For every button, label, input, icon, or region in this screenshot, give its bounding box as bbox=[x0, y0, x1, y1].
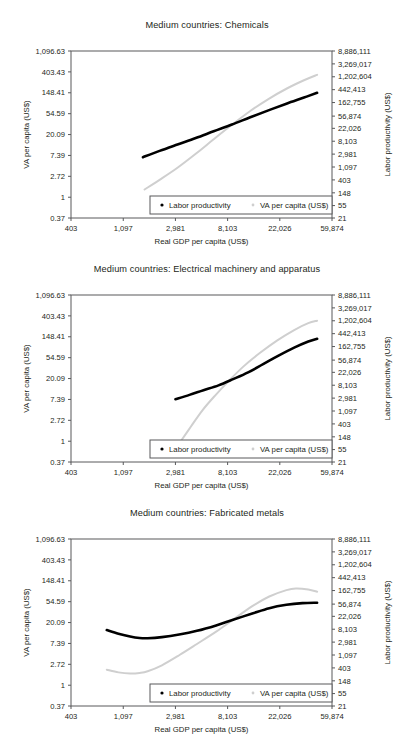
y-right-tick-label: 148 bbox=[338, 677, 351, 686]
chart-panel-electrical-machinery: Medium countries: Electrical machinery a… bbox=[0, 258, 414, 494]
y-left-tick-label: 20.09 bbox=[46, 130, 65, 139]
x-axis-title: Real GDP per capita (US$) bbox=[155, 237, 249, 246]
chart-canvas: 1,096.63403.43148.4154.5920.097.392.7210… bbox=[0, 258, 414, 494]
y-right-tick-label: 442,413 bbox=[338, 85, 365, 94]
y-right-axis-title: Labor productivity (US$) bbox=[383, 336, 392, 420]
series-labor-productivity bbox=[143, 93, 317, 157]
y-left-tick-label: 2.72 bbox=[50, 660, 65, 669]
y-right-tick-label: 56,874 bbox=[338, 600, 361, 609]
y-right-tick-label: 1,097 bbox=[338, 651, 357, 660]
y-left-axis-title: VA per capita (US$) bbox=[22, 100, 31, 169]
x-tick-label: 59,874 bbox=[320, 468, 343, 477]
y-right-tick-label: 3,269,017 bbox=[338, 548, 372, 557]
x-tick-label: 22,026 bbox=[268, 468, 291, 477]
y-left-tick-label: 148.41 bbox=[42, 88, 65, 97]
y-left-tick-label: 1 bbox=[61, 681, 65, 690]
y-right-tick-label: 55 bbox=[338, 201, 346, 210]
y-left-tick-label: 2.72 bbox=[50, 172, 65, 181]
legend-marker-va-per-capita bbox=[252, 692, 255, 695]
y-left-tick-label: 2.72 bbox=[50, 416, 65, 425]
y-left-tick-label: 0.37 bbox=[50, 214, 65, 223]
y-right-tick-label: 22,026 bbox=[338, 124, 361, 133]
chart-canvas: 1,096.63403.43148.4154.5920.097.392.7210… bbox=[0, 502, 414, 738]
y-left-tick-label: 148.41 bbox=[42, 332, 65, 341]
chart-canvas: 1,096.63403.43148.4154.5920.097.392.7210… bbox=[0, 14, 414, 250]
y-left-tick-label: 1 bbox=[61, 193, 65, 202]
y-right-tick-label: 8,103 bbox=[338, 137, 357, 146]
y-right-tick-label: 2,981 bbox=[338, 394, 357, 403]
y-left-axis-title: VA per capita (US$) bbox=[22, 588, 31, 657]
y-right-tick-label: 403 bbox=[338, 664, 351, 673]
y-right-tick-label: 2,981 bbox=[338, 150, 357, 159]
x-tick-label: 8,103 bbox=[218, 712, 237, 721]
y-left-tick-label: 20.09 bbox=[46, 374, 65, 383]
y-right-tick-label: 21 bbox=[338, 458, 346, 467]
chart-svg: 1,096.63403.43148.4154.5920.097.392.7210… bbox=[0, 258, 414, 494]
x-tick-label: 403 bbox=[65, 468, 78, 477]
y-right-tick-label: 55 bbox=[338, 445, 346, 454]
x-tick-label: 1,097 bbox=[114, 712, 133, 721]
y-right-tick-label: 3,269,017 bbox=[338, 60, 372, 69]
legend-marker-labor-productivity bbox=[160, 203, 163, 206]
y-left-tick-label: 0.37 bbox=[50, 702, 65, 711]
y-left-tick-label: 7.39 bbox=[50, 151, 65, 160]
y-right-tick-label: 162,755 bbox=[338, 342, 365, 351]
plot-frame bbox=[71, 539, 332, 706]
legend-marker-labor-productivity bbox=[160, 447, 163, 450]
y-right-tick-label: 21 bbox=[338, 702, 346, 711]
y-left-tick-label: 1,096.63 bbox=[35, 291, 65, 300]
legend-marker-va-per-capita bbox=[252, 448, 255, 451]
y-left-tick-label: 403.43 bbox=[42, 312, 65, 321]
y-right-tick-label: 3,269,017 bbox=[338, 304, 372, 313]
y-right-tick-label: 1,202,604 bbox=[338, 316, 372, 325]
y-left-axis-title: VA per capita (US$) bbox=[22, 344, 31, 413]
y-right-tick-label: 403 bbox=[338, 420, 351, 429]
x-tick-label: 1,097 bbox=[114, 468, 133, 477]
y-right-tick-label: 2,981 bbox=[338, 638, 357, 647]
y-left-tick-label: 54.59 bbox=[46, 597, 65, 606]
series-labor-productivity bbox=[107, 603, 317, 639]
x-tick-label: 403 bbox=[65, 712, 78, 721]
plot-frame bbox=[71, 295, 332, 462]
x-tick-label: 1,097 bbox=[114, 224, 133, 233]
legend-label-va-per-capita: VA per capita (US$) bbox=[260, 689, 329, 698]
series-va-per-capita bbox=[181, 321, 317, 441]
y-left-tick-label: 148.41 bbox=[42, 576, 65, 585]
y-left-tick-label: 1,096.63 bbox=[35, 535, 65, 544]
legend-label-labor-productivity: Labor productivity bbox=[169, 445, 231, 454]
y-left-tick-label: 7.39 bbox=[50, 395, 65, 404]
legend-marker-labor-productivity bbox=[160, 691, 163, 694]
x-tick-label: 2,981 bbox=[166, 468, 185, 477]
chart-panel-fabricated-metals: Medium countries: Fabricated metals 1,09… bbox=[0, 502, 414, 738]
y-right-tick-label: 56,874 bbox=[338, 112, 361, 121]
series-va-per-capita bbox=[107, 588, 317, 673]
y-left-tick-label: 1 bbox=[61, 437, 65, 446]
x-axis-title: Real GDP per capita (US$) bbox=[155, 725, 249, 734]
y-right-tick-label: 148 bbox=[338, 433, 351, 442]
legend-label-labor-productivity: Labor productivity bbox=[169, 689, 231, 698]
y-right-tick-label: 403 bbox=[338, 176, 351, 185]
y-left-tick-label: 20.09 bbox=[46, 618, 65, 627]
y-right-tick-label: 22,026 bbox=[338, 368, 361, 377]
y-right-tick-label: 442,413 bbox=[338, 573, 365, 582]
y-right-tick-label: 56,874 bbox=[338, 356, 361, 365]
y-left-tick-label: 0.37 bbox=[50, 458, 65, 467]
y-right-tick-label: 148 bbox=[338, 189, 351, 198]
y-left-tick-label: 7.39 bbox=[50, 639, 65, 648]
x-tick-label: 403 bbox=[65, 224, 78, 233]
chart-panel-chemicals: Medium countries: Chemicals 1,096.63403.… bbox=[0, 14, 414, 250]
y-right-tick-label: 1,097 bbox=[338, 407, 357, 416]
legend-marker-va-per-capita bbox=[252, 204, 255, 207]
y-right-tick-label: 8,886,111 bbox=[338, 291, 371, 300]
x-tick-label: 59,874 bbox=[320, 712, 343, 721]
legend-label-va-per-capita: VA per capita (US$) bbox=[260, 201, 329, 210]
x-tick-label: 59,874 bbox=[320, 224, 343, 233]
y-left-tick-label: 403.43 bbox=[42, 556, 65, 565]
x-tick-label: 22,026 bbox=[268, 224, 291, 233]
x-tick-label: 8,103 bbox=[218, 468, 237, 477]
y-right-tick-label: 1,202,604 bbox=[338, 72, 372, 81]
y-left-tick-label: 54.59 bbox=[46, 109, 65, 118]
y-right-axis-title: Labor productivity (US$) bbox=[383, 580, 392, 664]
x-tick-label: 8,103 bbox=[218, 224, 237, 233]
